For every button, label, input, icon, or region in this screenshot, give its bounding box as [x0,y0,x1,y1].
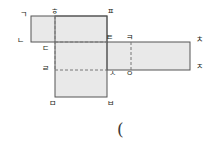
vertex-label-v8: ㅊ [196,36,203,44]
vertex-label-v10: ㅅ [109,70,116,78]
face-center-face [55,16,107,97]
trailing-paren-text: ( [117,121,124,138]
face-right-face [107,42,190,70]
vertex-label-v4: ㄴ [17,37,24,45]
net-diagram-canvas [0,0,216,146]
vertex-label-v6: ㅌ [106,34,113,42]
vertex-label-v9: ㄹ [42,65,49,73]
vertex-label-v13: ㅁ [49,100,56,108]
vertex-label-v11: ㅇ [126,70,133,78]
geometry-net-figure: ㄱㅎㅍㄴㄷㅌㅋㅊㄹㅅㅇㅈㅁㅂ ( [0,0,216,146]
vertex-label-v3: ㅍ [107,8,114,16]
vertex-label-v14: ㅂ [107,100,114,108]
vertex-label-v7: ㅋ [126,34,133,42]
vertex-label-v12: ㅈ [196,63,203,71]
vertex-label-v5: ㄷ [42,45,49,53]
vertex-label-v1: ㄱ [20,11,27,19]
vertex-label-v2: ㅎ [51,8,58,16]
